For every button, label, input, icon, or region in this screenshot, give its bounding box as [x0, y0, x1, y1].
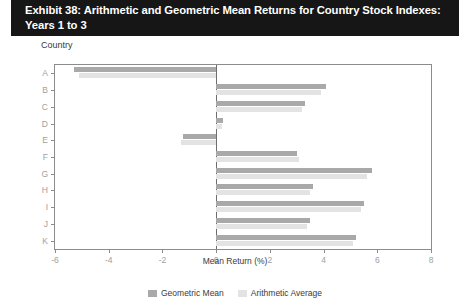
bar-row: E — [55, 132, 431, 149]
legend-label-geometric-mean: Geometric Mean — [161, 288, 224, 298]
x-axis-tick — [162, 249, 163, 253]
legend-label-arithmetic-average: Arithmetic Average — [251, 288, 322, 298]
y-axis-tick — [51, 73, 55, 74]
y-axis-tick-label: B — [42, 85, 48, 95]
x-axis-tick — [431, 249, 432, 253]
bar-row: I — [55, 199, 431, 216]
x-axis-tick — [324, 249, 325, 253]
y-axis-title: Country — [41, 40, 73, 50]
bar-geometric-mean — [216, 84, 326, 89]
bar-geometric-mean — [216, 151, 297, 156]
bar-arithmetic-average — [216, 190, 310, 195]
y-axis-tick-label: F — [43, 152, 48, 162]
x-axis-tick — [55, 249, 56, 253]
bar-arithmetic-average — [216, 207, 361, 212]
y-axis-tick — [51, 207, 55, 208]
bar-geometric-mean — [216, 118, 223, 123]
bar-arithmetic-average — [216, 157, 299, 162]
y-axis-tick-label: J — [44, 219, 48, 229]
bar-row: D — [55, 115, 431, 132]
legend-swatch-arithmetic-average — [238, 290, 247, 297]
bar-geometric-mean — [183, 134, 217, 139]
bar-arithmetic-average — [216, 174, 366, 179]
chart-legend: Geometric Mean Arithmetic Average — [0, 288, 470, 298]
y-axis-tick — [51, 224, 55, 225]
y-axis-tick-label: E — [42, 135, 48, 145]
y-axis-tick-label: A — [42, 68, 48, 78]
bar-row: J — [55, 216, 431, 233]
y-axis-tick — [51, 140, 55, 141]
x-axis-tick — [377, 249, 378, 253]
bar-geometric-mean — [216, 201, 364, 206]
chart-container: Country ABCDEFGHIJK -6-4-202468 Mean Ret… — [0, 0, 470, 308]
legend-swatch-geometric-mean — [148, 290, 157, 297]
y-axis-tick-label: G — [41, 169, 48, 179]
bar-arithmetic-average — [79, 73, 216, 78]
y-axis-tick — [51, 107, 55, 108]
y-axis-tick-label: K — [42, 236, 48, 246]
x-axis-tick — [270, 249, 271, 253]
bar-geometric-mean — [74, 67, 216, 72]
y-axis-tick-label: I — [46, 202, 48, 212]
bar-row: F — [55, 149, 431, 166]
y-axis-tick-label: C — [42, 102, 48, 112]
bar-geometric-mean — [216, 184, 313, 189]
bar-geometric-mean — [216, 235, 356, 240]
bar-row: G — [55, 165, 431, 182]
x-axis-tick — [109, 249, 110, 253]
bar-geometric-mean — [216, 101, 305, 106]
bar-arithmetic-average — [216, 241, 353, 246]
x-axis-title: Mean Return (%) — [0, 256, 470, 266]
plot-area: ABCDEFGHIJK -6-4-202468 — [54, 64, 432, 250]
bar-row: H — [55, 182, 431, 199]
bar-arithmetic-average — [216, 124, 221, 129]
bar-row: K — [55, 232, 431, 249]
y-axis-tick — [51, 241, 55, 242]
bar-arithmetic-average — [216, 224, 307, 229]
y-axis-tick-label: H — [42, 185, 48, 195]
bar-arithmetic-average — [181, 140, 216, 145]
legend-item-arithmetic-average: Arithmetic Average — [238, 288, 322, 298]
bar-row: B — [55, 82, 431, 99]
bar-geometric-mean — [216, 218, 310, 223]
legend-item-geometric-mean: Geometric Mean — [148, 288, 224, 298]
bar-arithmetic-average — [216, 107, 302, 112]
y-axis-tick — [51, 157, 55, 158]
bar-row: C — [55, 98, 431, 115]
bar-arithmetic-average — [216, 90, 321, 95]
y-axis-tick — [51, 124, 55, 125]
x-axis-tick — [216, 249, 217, 253]
bar-rows: ABCDEFGHIJK — [55, 65, 431, 249]
bar-geometric-mean — [216, 168, 372, 173]
y-axis-tick — [51, 174, 55, 175]
y-axis-tick — [51, 90, 55, 91]
bar-row: A — [55, 65, 431, 82]
y-axis-tick — [51, 190, 55, 191]
y-axis-tick-label: D — [42, 119, 48, 129]
